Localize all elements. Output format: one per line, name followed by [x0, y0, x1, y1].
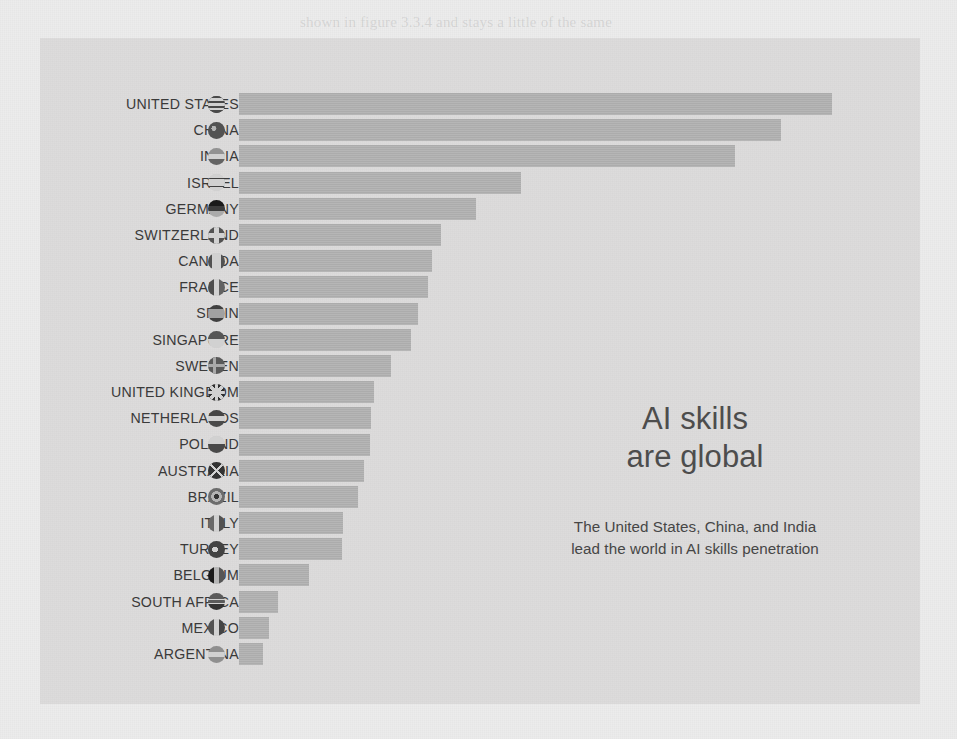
- flag-circle-italy: [208, 515, 225, 532]
- flag-circle-india: [208, 148, 225, 165]
- bar-track: [239, 643, 920, 665]
- callout-title-line-1: AI skills: [495, 400, 895, 438]
- bar: [239, 407, 371, 429]
- bar-track: [239, 198, 920, 220]
- bar-track: [239, 355, 920, 377]
- bar-row: SPAIN: [40, 301, 920, 327]
- bar-row: SWEDEN: [40, 353, 920, 379]
- bar: [239, 303, 418, 325]
- flag-circle-belgium: [208, 567, 225, 584]
- bar-track: [239, 119, 920, 141]
- bar: [239, 224, 441, 246]
- flag-circle-spain: [208, 305, 225, 322]
- bar: [239, 617, 269, 639]
- callout-subtitle-line-1: The United States, China, and India: [495, 516, 895, 539]
- background-text-top: shown in figure 3.3.4 and stays a little…: [300, 14, 612, 31]
- flag-circle-china: [208, 122, 225, 139]
- bar: [239, 250, 432, 272]
- bar-track: [239, 617, 920, 639]
- bar-row: GERMANY: [40, 196, 920, 222]
- chart-callout: AI skills are global The United States, …: [495, 400, 895, 561]
- flag-circle-united-kingdom: [208, 384, 225, 401]
- flag-circle-turkey: [208, 541, 225, 558]
- bar: [239, 329, 411, 351]
- flag-circle-united-states: [208, 96, 225, 113]
- bar: [239, 512, 343, 534]
- bar-row-label: AUSTRALIA: [158, 464, 239, 478]
- bar: [239, 591, 278, 613]
- callout-subtitle: The United States, China, and India lead…: [495, 516, 895, 562]
- bar-track: [239, 591, 920, 613]
- bar: [239, 486, 358, 508]
- bar-row: CANADA: [40, 248, 920, 274]
- bar-row: UNITED STATES: [40, 91, 920, 117]
- bar-track: [239, 145, 920, 167]
- bar: [239, 538, 342, 560]
- bar-row-label: GERMANY: [166, 202, 239, 216]
- callout-title-line-2: are global: [495, 438, 895, 476]
- bar-track: [239, 329, 920, 351]
- bar-track: [239, 224, 920, 246]
- chart-panel: UNITED STATESCHINAINDIAISRAELGERMANYSWIT…: [40, 38, 920, 704]
- bar-row: CHINA: [40, 117, 920, 143]
- bar-row: ARGENTINA: [40, 641, 920, 667]
- bar-row-label: SINGAPORE: [152, 333, 239, 347]
- bar: [239, 172, 521, 194]
- page-background: shown in figure 3.3.4 and stays a little…: [0, 0, 957, 739]
- bar-row: INDIA: [40, 143, 920, 169]
- bar-track: [239, 564, 920, 586]
- bar-track: [239, 93, 920, 115]
- bar-row: BELGIUM: [40, 562, 920, 588]
- callout-title: AI skills are global: [495, 400, 895, 476]
- bar-row: SOUTH AFRICA: [40, 589, 920, 615]
- bar: [239, 145, 735, 167]
- flag-circle-canada: [208, 253, 225, 270]
- bar: [239, 119, 781, 141]
- bar: [239, 198, 476, 220]
- bar: [239, 276, 428, 298]
- bar: [239, 460, 364, 482]
- bar-chart-rows: UNITED STATESCHINAINDIAISRAELGERMANYSWIT…: [40, 91, 920, 667]
- bar-row: MEXICO: [40, 615, 920, 641]
- bar-row: FRANCE: [40, 274, 920, 300]
- bar-row-label: BELGIUM: [173, 568, 239, 582]
- bar: [239, 355, 391, 377]
- bar-track: [239, 250, 920, 272]
- bar-track: [239, 303, 920, 325]
- bar: [239, 434, 370, 456]
- bar: [239, 643, 263, 665]
- flag-circle-switzerland: [208, 227, 225, 244]
- bar: [239, 564, 309, 586]
- flag-circle-netherlands: [208, 410, 225, 427]
- flag-circle-argentina: [208, 646, 225, 663]
- bar-row-label: ARGENTINA: [154, 647, 239, 661]
- bar: [239, 381, 374, 403]
- bar-row: ISRAEL: [40, 170, 920, 196]
- flag-circle-france: [208, 279, 225, 296]
- bar-row: SINGAPORE: [40, 327, 920, 353]
- bar: [239, 93, 832, 115]
- bar-track: [239, 172, 920, 194]
- callout-subtitle-line-2: lead the world in AI skills penetration: [495, 538, 895, 561]
- bar-track: [239, 276, 920, 298]
- bar-row: SWITZERLAND: [40, 222, 920, 248]
- flag-circle-poland: [208, 436, 225, 453]
